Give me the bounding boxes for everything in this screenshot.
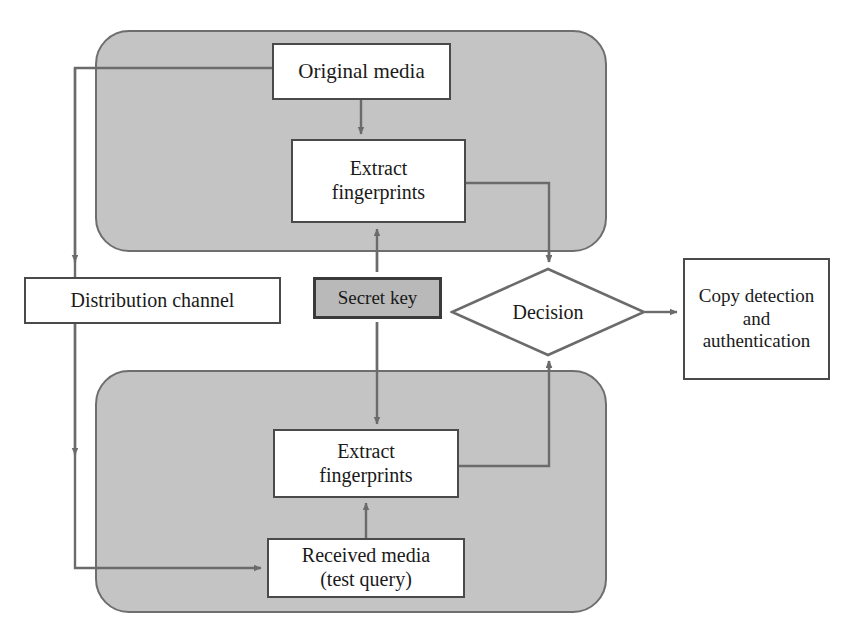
node-original-media-label: Original media: [298, 59, 425, 84]
node-extract-fingerprints-bottom-label: Extract fingerprints: [319, 440, 412, 487]
node-secret-key-label: Secret key: [338, 287, 418, 309]
flow-diagram: Original media Extract fingerprints Dist…: [0, 0, 857, 642]
node-extract-fingerprints-top-label: Extract fingerprints: [332, 157, 425, 204]
node-secret-key[interactable]: Secret key: [313, 277, 442, 319]
node-decision[interactable]: Decision: [450, 267, 646, 357]
node-extract-fingerprints-bottom[interactable]: Extract fingerprints: [273, 429, 459, 498]
node-distribution-channel[interactable]: Distribution channel: [24, 277, 281, 324]
node-original-media[interactable]: Original media: [272, 43, 451, 100]
node-received-media-label: Received media (test query): [302, 544, 430, 591]
node-copy-detection-label: Copy detection and authentication: [699, 285, 815, 352]
node-decision-label: Decision: [512, 301, 583, 324]
node-distribution-channel-label: Distribution channel: [71, 289, 235, 313]
node-copy-detection[interactable]: Copy detection and authentication: [683, 258, 830, 380]
node-received-media[interactable]: Received media (test query): [267, 538, 465, 598]
node-extract-fingerprints-top[interactable]: Extract fingerprints: [291, 139, 466, 223]
